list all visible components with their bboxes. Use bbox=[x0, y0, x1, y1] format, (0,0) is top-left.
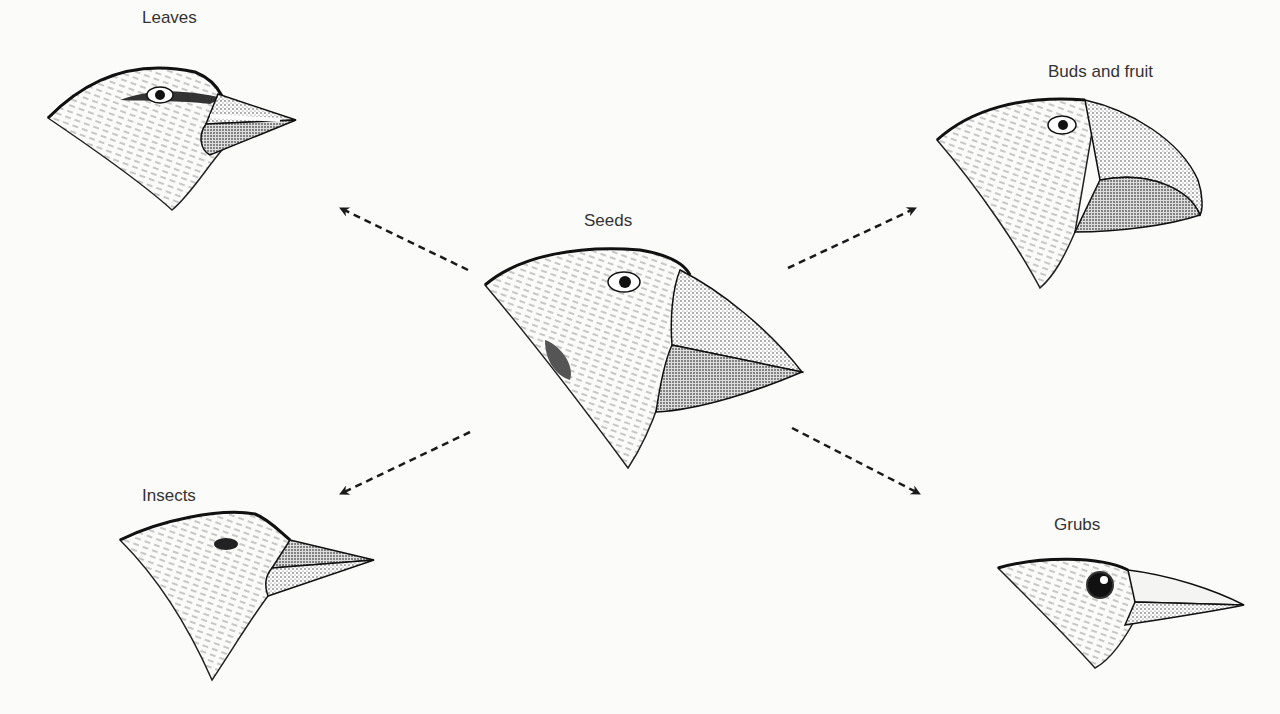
bird-grubs bbox=[998, 559, 1244, 668]
bird-buds-and-fruit bbox=[937, 99, 1202, 288]
bird-seeds bbox=[485, 249, 802, 468]
birds-layer bbox=[0, 0, 1280, 714]
bird-insects bbox=[120, 512, 374, 680]
bird-leaves bbox=[48, 68, 296, 210]
